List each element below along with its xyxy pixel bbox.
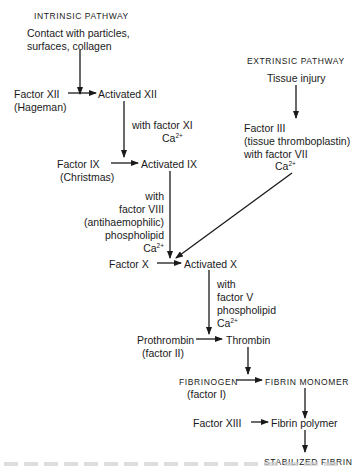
factor-x-label: Factor X <box>109 258 149 270</box>
extrinsic-trigger: Tissue injury <box>267 72 326 84</box>
with-factor-vii-label: with factor VII <box>244 148 308 160</box>
cofactor-viii-line3: (antihaemophilic) <box>60 216 164 228</box>
thrombin-label: Thrombin <box>226 334 270 346</box>
factor-ix-label: Factor IX <box>57 158 100 170</box>
factor-ix-alias: (Christmas) <box>60 171 114 183</box>
arrow-extrinsic-to-x <box>176 173 292 258</box>
intrinsic-trigger-line2: surfaces, collagen <box>27 40 112 52</box>
fibrin-monomer-label: FIBRIN MONOMER <box>265 376 349 388</box>
activated-ix-label: Activated IX <box>141 158 197 170</box>
intrinsic-pathway-title: INTRINSIC PATHWAY <box>34 10 129 22</box>
cofactor-v-line3: phospholipid <box>217 304 276 316</box>
extrinsic-calcium: Ca2+ <box>275 160 296 172</box>
factor-iii-label: Factor III <box>244 122 285 134</box>
arrow-layer <box>0 0 362 469</box>
fibrinogen-alias: (factor I) <box>187 388 226 400</box>
cofactor-viii-line4: phospholipid <box>60 229 164 241</box>
cofactor-v-line1: with <box>217 278 236 290</box>
cofactor-viii-line1: with <box>60 190 164 202</box>
factor-xiii-label: Factor XIII <box>193 417 241 429</box>
prothrombin-alias: (factor II) <box>142 347 184 359</box>
activated-x-label: Activated X <box>184 258 237 270</box>
intrinsic-trigger-line1: Contact with particles, <box>27 27 130 39</box>
cofactor-viii-calcium: Ca2+ <box>60 242 164 254</box>
factor-xii-alias: (Hageman) <box>14 101 67 113</box>
factor-iii-alias: (tissue thromboplastin) <box>244 135 350 147</box>
extrinsic-pathway-title: EXTRINSIC PATHWAY <box>247 55 345 67</box>
factor-xii-label: Factor XII <box>14 88 60 100</box>
cofactor-xi-label: with factor XI <box>132 119 193 131</box>
cofactor-viii-line2: factor VIII <box>60 203 164 215</box>
fibrinogen-label: FIBRINOGEN <box>179 376 238 388</box>
cofactor-v-line2: factor V <box>217 291 253 303</box>
truncated-caption <box>4 462 344 466</box>
activated-xii-label: Activated XII <box>98 88 157 100</box>
cofactor-xi-calcium: Ca2+ <box>162 132 183 144</box>
cofactor-v-calcium: Ca2+ <box>217 317 238 329</box>
prothrombin-label: Prothrombin <box>137 334 194 346</box>
fibrin-polymer-label: Fibrin polymer <box>271 417 338 429</box>
